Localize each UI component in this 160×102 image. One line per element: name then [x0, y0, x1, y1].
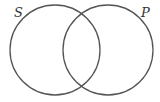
circle-p — [63, 5, 153, 95]
circle-s — [10, 5, 100, 95]
venn-diagram: S P — [0, 0, 160, 102]
label-p: P — [140, 5, 150, 20]
label-s: S — [14, 5, 23, 20]
